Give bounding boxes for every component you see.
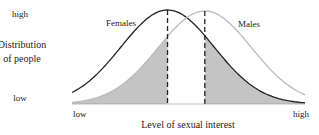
shaded-region-right: [205, 36, 305, 104]
shaded-region-left: [72, 36, 168, 104]
y-tick-low: low: [13, 93, 27, 103]
distribution-chart: high Distribution of people low low high…: [0, 0, 319, 135]
y-axis-label-line2: of people: [3, 53, 41, 64]
x-axis-label: Level of sexual interest: [141, 119, 235, 130]
y-axis-label-line1: Distribution: [0, 39, 46, 50]
series-label-females: Females: [106, 18, 136, 28]
x-tick-high: high: [293, 109, 310, 119]
y-tick-high: high: [12, 9, 29, 19]
series-label-males: Males: [238, 19, 260, 29]
chart-container: high Distribution of people low low high…: [0, 0, 319, 135]
x-tick-low: low: [73, 109, 87, 119]
